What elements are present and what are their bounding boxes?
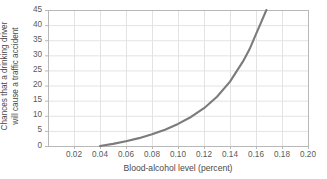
x-axis-label: Blood-alcohol level (percent) (48, 163, 308, 173)
chart-figure: Chances that a drinking driver will caus… (0, 0, 327, 179)
data-curve (100, 10, 266, 146)
plot-area (0, 0, 327, 179)
